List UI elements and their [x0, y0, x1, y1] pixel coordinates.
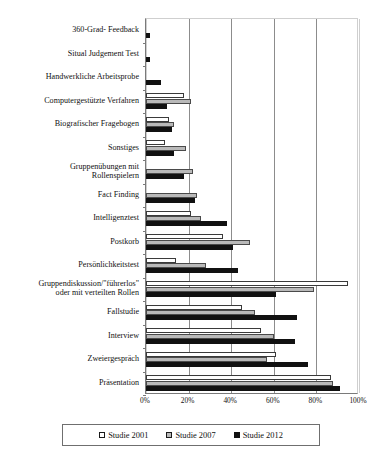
- bar-s2012: [146, 104, 167, 109]
- bar-chart: 360-Grad- FeedbackSitual Judgement TestH…: [0, 0, 382, 464]
- x-tick-label: 100%: [349, 396, 366, 405]
- bar-s2007: [146, 287, 314, 292]
- bar-s2007: [146, 99, 191, 104]
- category-label: Situal Judgement Test: [1, 49, 139, 58]
- bar-group: [146, 137, 357, 161]
- bar-s2007: [146, 169, 193, 174]
- category-label: Computergestützte Verfahren: [1, 96, 139, 105]
- bar-s2012: [146, 315, 297, 320]
- bar-s2001: [146, 117, 169, 122]
- category-label: Interview: [1, 331, 139, 340]
- bar-s2007: [146, 193, 197, 198]
- category-label: Zweiergespräch: [1, 354, 139, 363]
- gray-square-icon: [166, 432, 172, 438]
- legend-label: Studie 2007: [175, 431, 215, 440]
- bar-s2007: [146, 334, 274, 339]
- bar-s2012: [146, 33, 150, 38]
- category-label: Biografischer Fragebogen: [1, 119, 139, 128]
- bar-rows: [146, 19, 357, 393]
- bar-group: [146, 254, 357, 278]
- bar-group: [146, 43, 357, 67]
- bar-group: [146, 184, 357, 208]
- category-label: Sonstiges: [1, 143, 139, 152]
- bar-group: [146, 19, 357, 43]
- x-tick-label: 80%: [309, 396, 323, 405]
- bar-s2012: [146, 292, 276, 297]
- bar-s2012: [146, 151, 174, 156]
- legend-item[interactable]: Studie 2012: [234, 431, 283, 440]
- bar-s2012: [146, 80, 161, 85]
- bar-s2001: [146, 258, 176, 263]
- x-tick-label: 40%: [223, 396, 237, 405]
- bar-group: [146, 231, 357, 255]
- category-label: Intelligenztest: [1, 213, 139, 222]
- bar-s2001: [146, 234, 223, 239]
- category-label: Handwerkliche Arbeitsprobe: [1, 72, 139, 81]
- bar-s2001: [146, 140, 165, 145]
- bar-group: [146, 348, 357, 372]
- x-tick-label: 0%: [140, 396, 150, 405]
- bar-s2012: [146, 362, 308, 367]
- bar-s2012: [146, 221, 227, 226]
- bar-s2001: [146, 352, 276, 357]
- legend-label: Studie 2012: [243, 431, 283, 440]
- plot-area-wrapper: 360-Grad- FeedbackSitual Judgement TestH…: [0, 0, 382, 404]
- bar-s2012: [146, 245, 233, 250]
- x-tick-label: 20%: [181, 396, 195, 405]
- bar-group: [146, 325, 357, 349]
- bar-s2007: [146, 381, 333, 386]
- legend-label: Studie 2001: [108, 431, 148, 440]
- category-label: Postkorb: [1, 237, 139, 246]
- bar-group: [146, 301, 357, 325]
- bar-s2001: [146, 211, 191, 216]
- gridline-100pct: [359, 19, 360, 393]
- bar-s2012: [146, 386, 340, 391]
- category-label: Persönlichkeitstest: [1, 260, 139, 269]
- bar-s2012: [146, 127, 172, 132]
- chart-legend: Studie 2001Studie 2007Studie 2012: [62, 424, 320, 446]
- bar-s2007: [146, 263, 206, 268]
- bar-group: [146, 113, 357, 137]
- bar-s2012: [146, 339, 295, 344]
- category-label: Gruppenübungen mitRollenspielern: [1, 162, 139, 180]
- bar-s2007: [146, 146, 186, 151]
- bar-s2007: [146, 122, 174, 127]
- x-tick-label: 60%: [266, 396, 280, 405]
- category-label: 360-Grad- Feedback: [1, 25, 139, 34]
- category-axis-labels: 360-Grad- FeedbackSitual Judgement TestH…: [0, 18, 142, 394]
- bar-s2007: [146, 357, 267, 362]
- category-label: Fallstudie: [1, 307, 139, 316]
- bar-s2001: [146, 281, 348, 286]
- black-square-icon: [234, 432, 240, 438]
- plot-area: [145, 18, 358, 394]
- bar-s2012: [146, 268, 238, 273]
- bar-group: [146, 372, 357, 396]
- bar-group: [146, 207, 357, 231]
- x-axis-ticks: 0%20%40%60%80%100%: [145, 396, 358, 410]
- bar-group: [146, 90, 357, 114]
- bar-s2007: [146, 310, 255, 315]
- bar-s2012: [146, 57, 150, 62]
- category-label: Präsentation: [1, 378, 139, 387]
- bar-group: [146, 160, 357, 184]
- bar-s2007: [146, 240, 250, 245]
- legend-item[interactable]: Studie 2007: [166, 431, 215, 440]
- bar-s2001: [146, 375, 331, 380]
- bar-s2012: [146, 174, 184, 179]
- bar-group: [146, 278, 357, 302]
- category-label: Gruppendiskussion/"führerlos"oder mit ve…: [1, 279, 139, 297]
- bar-s2007: [146, 216, 201, 221]
- category-label: Fact Finding: [1, 190, 139, 199]
- bar-group: [146, 66, 357, 90]
- bar-s2012: [146, 198, 195, 203]
- bar-s2001: [146, 305, 242, 310]
- white-square-icon: [99, 432, 105, 438]
- legend-item[interactable]: Studie 2001: [99, 431, 148, 440]
- bar-s2001: [146, 328, 261, 333]
- bar-s2001: [146, 93, 184, 98]
